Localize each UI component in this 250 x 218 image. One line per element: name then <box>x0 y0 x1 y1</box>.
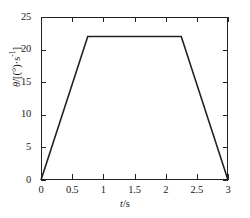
y-axis-tick <box>41 115 46 116</box>
chart-plot-area <box>41 17 228 180</box>
y-axis-title: θ̇/[(°)·s-1] <box>5 7 21 127</box>
x-axis-tick-label: 3 <box>211 185 245 196</box>
x-axis-tick-label: 1.5 <box>118 185 152 196</box>
x-axis-tick-label: 2.5 <box>180 185 214 196</box>
x-axis-title-units: /s <box>123 198 130 209</box>
y-axis-tick-right <box>223 82 228 83</box>
y-axis-title-bracket: ] <box>11 47 22 51</box>
y-axis-title-units: /[(°)·s <box>11 57 22 82</box>
x-axis-tick-top <box>166 17 167 22</box>
y-axis-title-symbol: θ̇ <box>11 82 22 87</box>
y-axis-tick-right <box>223 115 228 116</box>
x-axis-tick-top <box>135 17 136 22</box>
x-axis-tick-top <box>228 17 229 22</box>
x-axis-tick-label: 1 <box>86 185 120 196</box>
x-axis-tick <box>197 174 198 180</box>
y-axis-tick-label: 5 <box>1 142 31 153</box>
y-axis-tick <box>41 50 46 51</box>
x-axis-tick <box>41 174 42 180</box>
y-axis-tick <box>41 180 46 181</box>
x-axis-tick <box>72 174 73 180</box>
x-axis-tick-label: 0.5 <box>55 185 89 196</box>
x-axis-tick <box>135 174 136 180</box>
x-axis-tick-top <box>197 17 198 22</box>
x-axis-tick-top <box>72 17 73 22</box>
x-axis-tick-top <box>41 17 42 22</box>
y-axis-tick-right <box>223 180 228 181</box>
y-axis-tick-right <box>223 147 228 148</box>
y-axis-title-exponent: -1 <box>8 50 17 56</box>
x-axis-tick <box>103 174 104 180</box>
y-axis-tick <box>41 82 46 83</box>
x-axis-tick <box>228 174 229 180</box>
y-axis-tick-right <box>223 50 228 51</box>
x-axis-tick <box>166 174 167 180</box>
y-axis-tick <box>41 147 46 148</box>
x-axis-tick-label: 2 <box>149 185 183 196</box>
x-axis-tick-label: 0 <box>24 185 58 196</box>
data-series-line <box>41 37 228 180</box>
y-axis-tick-label: 0 <box>1 175 31 186</box>
x-axis-title: t/s <box>0 198 250 209</box>
figure-container: 0510152025 00.511.522.53 t/s θ̇/[(°)·s-1… <box>0 0 250 218</box>
x-axis-tick-top <box>103 17 104 22</box>
